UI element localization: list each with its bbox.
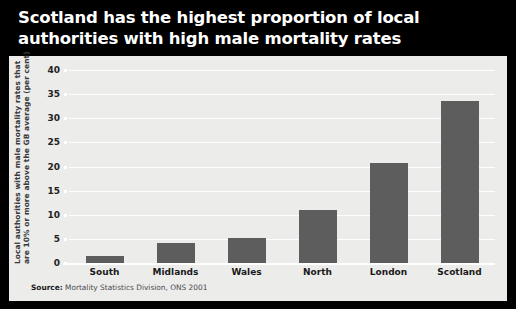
title-band: Scotland has the highest proportion of l…	[0, 0, 516, 56]
tick-marker-15	[64, 190, 67, 193]
y-tick-label-0: 0	[54, 258, 60, 268]
bar-slot	[69, 70, 140, 263]
y-tick-label-5: 5	[54, 234, 60, 244]
y-tick-label-15: 15	[47, 186, 60, 196]
y-tick-label-40: 40	[47, 65, 60, 75]
y-axis-title-line-2: are 10% or more above the GB average (pe…	[22, 64, 31, 264]
tick-marker-35	[64, 93, 67, 96]
tick-marker-5	[64, 238, 67, 241]
bar-london	[370, 163, 408, 263]
x-category-label-scotland: Scotland	[424, 267, 495, 277]
bar-slot	[140, 70, 211, 263]
plot-card: Local authorities with male mortality ra…	[9, 56, 507, 301]
bar-slot	[282, 70, 353, 263]
tick-marker-40	[64, 69, 67, 72]
bar-slot	[424, 70, 495, 263]
bar-south	[86, 256, 124, 263]
tick-marker-25	[64, 141, 67, 144]
y-tick-label-25: 25	[47, 137, 60, 147]
source-label: Source:	[31, 283, 63, 292]
bar-wales	[228, 238, 266, 263]
x-category-label-london: London	[353, 267, 424, 277]
y-tick-label-30: 30	[47, 113, 60, 123]
x-category-label-south: South	[69, 267, 140, 277]
y-tick-label-20: 20	[47, 162, 60, 172]
chart-title: Scotland has the highest proportion of l…	[0, 7, 430, 49]
bar-series	[69, 70, 495, 263]
bar-north	[299, 210, 337, 263]
source-value: Mortality Statistics Division, ONS 2001	[63, 283, 208, 292]
x-category-label-wales: Wales	[211, 267, 282, 277]
tick-marker-30	[64, 117, 67, 120]
bar-slot	[211, 70, 282, 263]
y-axis-title-line-1: Local authorities with male mortality ra…	[13, 64, 22, 264]
chart-figure: Scotland has the highest proportion of l…	[0, 0, 516, 309]
source-note: Source: Mortality Statistics Division, O…	[31, 283, 207, 292]
tick-marker-20	[64, 166, 67, 169]
y-tick-label-35: 35	[47, 89, 60, 99]
bar-slot	[353, 70, 424, 263]
x-category-label-midlands: Midlands	[140, 267, 211, 277]
bar-midlands	[157, 243, 195, 263]
y-axis-title: Local authorities with male mortality ra…	[11, 64, 37, 264]
x-category-label-north: North	[282, 267, 353, 277]
y-tick-label-10: 10	[47, 210, 60, 220]
x-axis-category-labels: SouthMidlandsWalesNorthLondonScotland	[69, 267, 495, 283]
x-axis-baseline	[63, 263, 495, 265]
tick-marker-10	[64, 214, 67, 217]
plot-area: 0510152025303540	[69, 70, 495, 263]
bar-scotland	[441, 101, 479, 263]
